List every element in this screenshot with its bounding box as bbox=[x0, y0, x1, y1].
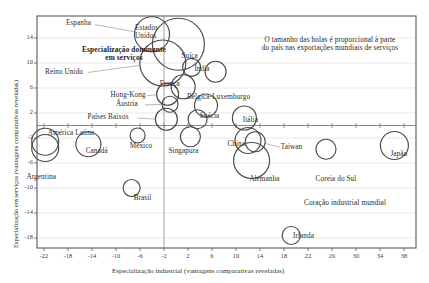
bubble-label: China bbox=[227, 141, 245, 149]
x-tick-label: -10 bbox=[109, 253, 123, 260]
x-tick-label: 2 bbox=[181, 253, 195, 260]
x-tick-label: 26 bbox=[325, 253, 339, 260]
bubble-label: Japão bbox=[390, 151, 407, 159]
bubble-label: Espanha bbox=[66, 20, 91, 28]
bubble-label: Áustria bbox=[116, 101, 138, 109]
bubble-label: Itália bbox=[243, 117, 258, 125]
annotation-bubble-size: O tamanho das bolas é proporcional à par… bbox=[240, 36, 420, 52]
x-axis-title: Especialização industrial (vantagens com… bbox=[112, 267, 284, 274]
x-tick-label: -14 bbox=[85, 253, 99, 260]
bubble-label: América Latina bbox=[48, 130, 94, 138]
bubble-label: Canadá bbox=[86, 148, 108, 156]
x-tick-label: 18 bbox=[277, 253, 291, 260]
annotation-dominant-services: Especialização dominanteem serviços bbox=[64, 46, 184, 63]
bubble-label: Brasil bbox=[134, 195, 152, 203]
bubble-label: Singapura bbox=[168, 148, 198, 156]
bubble-label: Países Baixos bbox=[88, 114, 129, 122]
bubble-label: Irlanda bbox=[293, 233, 314, 241]
x-tick-label: -18 bbox=[61, 253, 75, 260]
x-tick-label: 34 bbox=[373, 253, 387, 260]
bubble-label: Alemanha bbox=[249, 176, 279, 184]
bubble-label: México bbox=[130, 143, 153, 151]
x-tick-label: 10 bbox=[229, 253, 243, 260]
bubble-label: França bbox=[160, 81, 180, 89]
y-axis-title: Especialização em serviços (vantagens co… bbox=[12, 80, 19, 248]
bubble-label: Reino Unido bbox=[45, 69, 83, 77]
x-tick-label: 22 bbox=[301, 253, 315, 260]
bubble-chart: -22-18-14-10-6-2261014182226303438141062… bbox=[0, 0, 429, 283]
x-tick-label: -2 bbox=[157, 253, 171, 260]
bubble-label: Hong-Kong bbox=[110, 92, 145, 100]
y-tick-label: 14 bbox=[15, 34, 33, 41]
annotation-industrial-core: Coração industrial mundial bbox=[285, 199, 405, 207]
x-tick-label: 30 bbox=[349, 253, 363, 260]
bubble-label: Suécia bbox=[200, 113, 220, 121]
x-tick-label: 14 bbox=[253, 253, 267, 260]
bubble-label: Coreia do Sul bbox=[316, 176, 357, 184]
bubble-label: Bélgica-Luxemburgo bbox=[187, 94, 250, 102]
bubble-label: EstadosUnidos bbox=[135, 24, 158, 40]
x-tick-label: -6 bbox=[133, 253, 147, 260]
x-tick-label: -22 bbox=[37, 253, 51, 260]
bubble-label: Taiwan bbox=[281, 144, 303, 152]
y-tick-label: 10 bbox=[15, 59, 33, 66]
x-tick-label: 38 bbox=[397, 253, 411, 260]
bubble-label: Índia bbox=[194, 66, 209, 74]
x-tick-label: 6 bbox=[205, 253, 219, 260]
bubble-label: Argentina bbox=[26, 174, 56, 182]
